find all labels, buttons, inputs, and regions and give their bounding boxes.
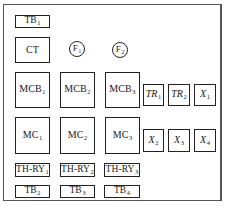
fuse-f2: F2 xyxy=(112,42,128,58)
terminal-block-tb2: TB2 xyxy=(15,185,50,198)
contactor-mc3: MC3 xyxy=(105,117,140,154)
x4-label: X4 xyxy=(200,135,210,147)
relay-tr1: TR1 xyxy=(143,84,164,106)
thry2-label: TH-RY2 xyxy=(61,165,94,176)
x1-label: X1 xyxy=(200,89,210,101)
x2-label: X2 xyxy=(148,135,158,147)
mcb3-label: MCB3 xyxy=(109,84,135,96)
thry3-label: TH-RY3 xyxy=(106,165,139,176)
mcb1-label: MCB1 xyxy=(19,84,45,96)
terminal-block-tb1: TB1 xyxy=(15,15,50,28)
thermal-relay-thry2: TH-RY2 xyxy=(60,163,95,177)
f2-label: F2 xyxy=(116,45,124,56)
tb4-label: TB4 xyxy=(114,186,130,197)
relay-tr2: TR2 xyxy=(168,84,190,106)
breaker-mcb3: MCB3 xyxy=(105,72,140,108)
x3-label: X3 xyxy=(174,135,184,147)
mcb2-label: MCB2 xyxy=(64,84,90,96)
contactor-mc2: MC2 xyxy=(60,117,95,154)
relay-x2: X2 xyxy=(143,129,164,152)
thermal-relay-thry1: TH-RY1 xyxy=(15,163,50,177)
relay-x3: X3 xyxy=(168,129,190,152)
fuse-f1: F1 xyxy=(69,41,85,57)
ct-label: CT xyxy=(26,45,39,55)
mc1-label: MC1 xyxy=(23,130,43,142)
mc2-label: MC2 xyxy=(68,130,88,142)
relay-x4: X4 xyxy=(194,129,216,152)
thry1-label: TH-RY1 xyxy=(16,165,49,176)
tb2-label: TB2 xyxy=(24,186,40,197)
current-transformer-ct: CT xyxy=(15,37,50,63)
breaker-mcb2: MCB2 xyxy=(60,72,95,108)
breaker-mcb1: MCB1 xyxy=(15,72,50,108)
tr1-label: TR1 xyxy=(146,89,162,101)
f1-label: F1 xyxy=(73,44,81,55)
tb1-label: TB1 xyxy=(24,16,40,27)
thermal-relay-thry3: TH-RY3 xyxy=(104,163,140,177)
relay-x1: X1 xyxy=(194,84,216,106)
contactor-mc1: MC1 xyxy=(15,117,50,154)
tb3-label: TB3 xyxy=(69,186,85,197)
terminal-block-tb4: TB4 xyxy=(104,185,140,198)
mc3-label: MC3 xyxy=(113,130,133,142)
terminal-block-tb3: TB3 xyxy=(60,185,95,198)
tr2-label: TR2 xyxy=(171,89,187,101)
